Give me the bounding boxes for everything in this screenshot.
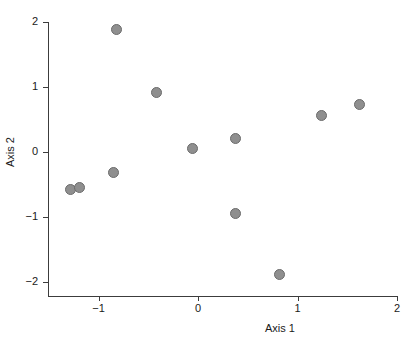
- x-axis-title-label: Axis 1: [265, 322, 295, 334]
- x-axis-title: Axis 1: [0, 322, 410, 334]
- scatter-point: [316, 110, 327, 121]
- y-axis-title: Axis 2: [2, 0, 18, 348]
- y-axis-title-label: Axis 2: [4, 137, 16, 167]
- scatter-point: [108, 167, 119, 178]
- scatter-point: [74, 182, 85, 193]
- scatter-plot-figure: 210−1−2−1012 Axis 1 Axis 2: [0, 0, 410, 348]
- scatter-point: [354, 99, 365, 110]
- scatter-point: [230, 133, 241, 144]
- scatter-point: [274, 269, 285, 280]
- scatter-point: [111, 24, 122, 35]
- scatter-point: [187, 143, 198, 154]
- scatter-point: [230, 208, 241, 219]
- scatter-point: [151, 87, 162, 98]
- data-points-layer: [0, 0, 410, 348]
